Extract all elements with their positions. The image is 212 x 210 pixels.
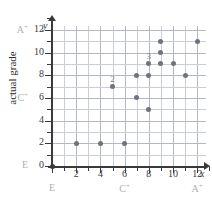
x-grade-label: A+ [187,182,207,194]
x-tick-label: 12 [189,168,205,179]
y-axis-tick [45,75,52,76]
data-point [122,141,127,146]
y-axis-tick [45,143,52,144]
x-axis-tick [88,166,89,171]
data-point [195,39,200,44]
x-grade-label: C+ [115,182,135,194]
x-axis-tick [64,166,65,171]
gridline-horizontal [52,41,206,42]
x-axis-tick [209,166,210,171]
gridline-vertical [149,26,150,166]
x-tick-label: 2 [68,168,84,179]
x-tick-label: 10 [165,168,181,179]
y-axis-tick [45,53,52,54]
point-count-annotation: 2 [110,74,115,84]
data-point [134,73,139,78]
x-axis-tick [185,166,186,171]
y-axis-tick [47,41,52,42]
y-axis-tick [47,87,52,88]
y-grade-label: C+ [6,91,28,103]
gridline-horizontal [52,121,206,122]
data-point [183,73,188,78]
gridline-vertical [88,26,89,166]
gridline-horizontal [52,87,206,88]
y-tick-label: 10 [28,46,44,57]
y-tick-label: 6 [28,91,44,102]
y-axis-tick [47,18,52,19]
data-point [171,61,176,66]
y-grade-label: E [6,159,28,170]
gridline-horizontal [52,109,206,110]
data-point [98,141,103,146]
gridline-vertical [161,26,162,166]
y-axis-line [51,20,53,168]
gridline-vertical [185,26,186,166]
data-point [74,141,79,146]
gridline-horizontal [52,98,206,99]
gridline-vertical [197,26,198,166]
gridline-horizontal [52,53,206,54]
y-tick-label: 12 [28,23,44,34]
x-tick-label: 4 [92,168,108,179]
x-grade-label: E [42,182,62,193]
point-count-annotation: 3 [147,51,152,61]
x-axis-tick [161,166,162,171]
y-axis-tick [45,98,52,99]
y-axis-tick [45,121,52,122]
y-axis-tick [45,30,52,31]
gridline-vertical [173,26,174,166]
y-tick-label: 2 [28,136,44,147]
y-tick-label: 8 [28,68,44,79]
gridline-horizontal [52,30,206,31]
y-axis-tick [47,64,52,65]
scatter-plot-figure: x y actual grade 24681012024681012EC+A+E… [0,0,212,210]
y-axis-tick [47,132,52,133]
x-axis-tick [137,166,138,171]
x-tick-label: 8 [141,168,157,179]
x-axis-tick [113,166,114,171]
y-tick-label: 0 [28,159,44,170]
data-point [50,164,55,169]
gridline-vertical [64,26,65,166]
y-axis-tick [47,155,52,156]
y-axis-title: actual grade [6,30,18,126]
y-tick-label: 4 [28,114,44,125]
x-tick-label: 6 [117,168,133,179]
y-axis-tick [47,109,52,110]
gridline-vertical [113,26,114,166]
gridline-horizontal [52,155,206,156]
y-grade-label: A+ [6,23,28,35]
gridline-horizontal [52,132,206,133]
gridline-horizontal [52,64,206,65]
